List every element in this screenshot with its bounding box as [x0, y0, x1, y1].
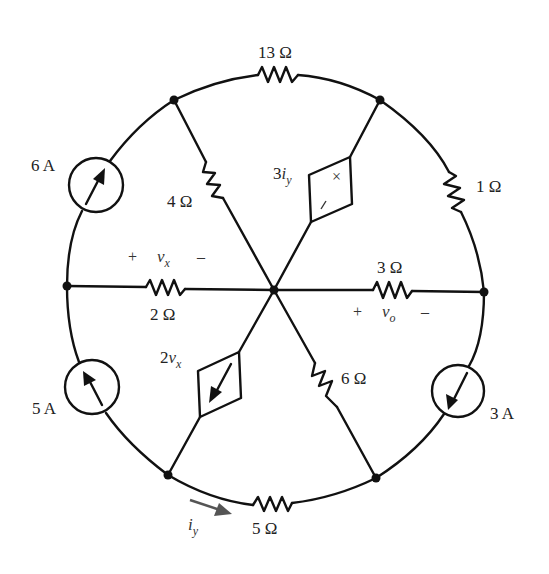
resistor-13-ohm: 13 Ω: [174, 43, 380, 100]
svg-text:2 Ω: 2 Ω: [150, 305, 175, 324]
current-source-3a: 3 A: [376, 292, 515, 478]
svg-text:3 Ω: 3 Ω: [377, 258, 402, 277]
svg-text:1 Ω: 1 Ω: [476, 177, 501, 196]
node-right: [480, 288, 489, 297]
resistor-5-ohm: 5 Ω: [168, 475, 376, 538]
node-top-right: [376, 96, 385, 105]
resistor-4-ohm: 4 Ω: [167, 100, 274, 290]
vx-label: + vx –: [128, 247, 206, 270]
svg-text:–: –: [420, 303, 430, 320]
node-bottom-left: [164, 471, 173, 480]
svg-text:–: –: [196, 248, 206, 265]
current-source-5a: 5 A: [32, 286, 168, 475]
resistor-3-ohm: 3 Ω: [274, 258, 484, 298]
dependent-voltage-source-3iy: × 3iy: [273, 100, 380, 290]
svg-text:vx: vx: [157, 247, 171, 270]
svg-text:4 Ω: 4 Ω: [167, 192, 192, 211]
node-center: [270, 286, 279, 295]
svg-text:×: ×: [332, 168, 341, 185]
circuit-diagram: 13 Ω 1 Ω 3 A 5 Ω 5 A 6 A: [0, 0, 549, 574]
node-top-left: [170, 96, 179, 105]
svg-text:5 A: 5 A: [32, 399, 57, 418]
svg-text:3 A: 3 A: [490, 404, 515, 423]
svg-text:5 Ω: 5 Ω: [252, 519, 277, 538]
svg-text:2vx: 2vx: [160, 348, 182, 371]
svg-text:iy: iy: [188, 515, 199, 538]
svg-text:13 Ω: 13 Ω: [258, 43, 292, 62]
node-left: [63, 282, 72, 291]
svg-text:vo: vo: [382, 302, 396, 325]
node-bottom-right: [372, 474, 381, 483]
current-source-6a: 6 A: [31, 100, 174, 286]
svg-text:+: +: [128, 248, 137, 265]
svg-text:3iy: 3iy: [273, 164, 292, 187]
vo-label: + vo –: [353, 302, 430, 325]
svg-text:6 A: 6 A: [31, 156, 56, 175]
iy-current-arrow: iy: [188, 500, 232, 538]
svg-text:+: +: [353, 303, 362, 320]
dependent-current-source-2vx: 2vx: [160, 290, 274, 475]
resistor-2-ohm: 2 Ω: [67, 280, 274, 324]
svg-text:6 Ω: 6 Ω: [341, 369, 366, 388]
